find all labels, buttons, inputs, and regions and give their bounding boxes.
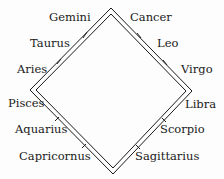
label-capricornus: Capricornus [19,150,91,162]
label-scorpio: Scorpio [160,123,205,135]
label-libra: Libra [185,98,216,110]
label-virgo: Virgo [181,63,213,75]
label-pisces: Pisces [8,97,44,109]
label-aries: Aries [17,63,47,75]
label-gemini: Gemini [49,11,91,23]
zodiac-diagram: Gemini Cancer Taurus Leo Aries Virgo Pis… [0,0,224,179]
label-aquarius: Aquarius [15,123,67,135]
label-taurus: Taurus [30,37,70,49]
label-cancer: Cancer [130,11,172,23]
tick [83,32,87,38]
label-leo: Leo [157,37,178,49]
label-sagittarius: Sagittarius [135,150,199,162]
